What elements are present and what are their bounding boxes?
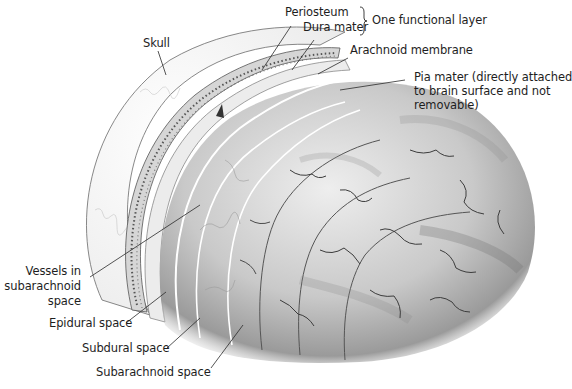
label-pia-mater-line2: to brain surface and not <box>414 85 550 98</box>
label-vessels-line3: space <box>48 295 81 308</box>
label-skull: Skull <box>143 37 170 50</box>
label-one-functional-layer: One functional layer <box>372 14 487 27</box>
label-pia-mater-line1: Pia mater (directly attached <box>414 71 572 84</box>
label-subdural-space: Subdural space <box>82 342 169 355</box>
label-vessels-line2: subarachnoid <box>4 280 81 293</box>
label-vessels-line1: Vessels in <box>26 265 81 278</box>
label-pia-mater-line3: removable) <box>414 99 479 112</box>
label-periosteum: Periosteum <box>285 6 349 19</box>
label-subarachnoid-space: Subarachnoid space <box>96 366 211 379</box>
label-arachnoid-membrane: Arachnoid membrane <box>350 44 473 57</box>
label-dura-mater: Dura mater <box>303 21 368 34</box>
label-epidural-space: Epidural space <box>49 317 132 330</box>
